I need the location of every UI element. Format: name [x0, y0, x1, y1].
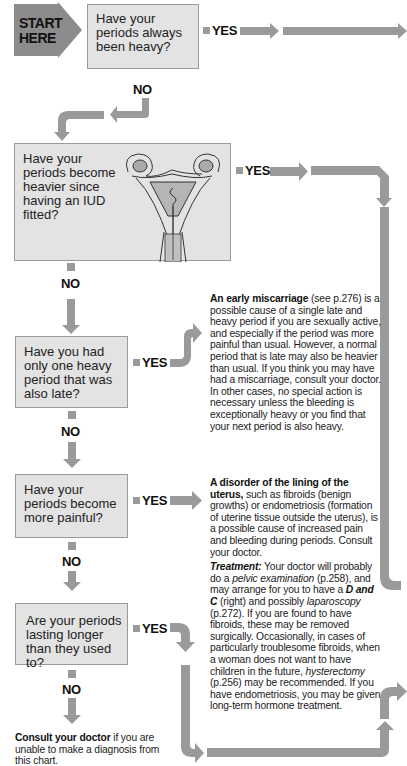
term-pelvic-exam: pelvic examination	[232, 573, 314, 584]
no-label-q2: NO	[61, 276, 80, 291]
question-box-lasting-longer: Are your periods lasting longer than the…	[15, 603, 128, 665]
no-label-q5: NO	[62, 682, 81, 697]
no-label-q3: NO	[61, 424, 80, 439]
info-early-miscarriage: An early miscarriage (see p.276) is a po…	[210, 293, 382, 432]
term-laparoscopy: laparoscopy	[307, 596, 361, 607]
start-line2: HERE	[19, 31, 62, 46]
yes-label-q4: YES	[142, 493, 167, 508]
question-text: Have you had only one heavy period that …	[24, 345, 124, 401]
start-line1: START	[19, 16, 62, 31]
treatment-label: Treatment:	[210, 561, 262, 572]
question-box-always-heavy: Have your periods always been heavy?	[87, 4, 199, 69]
yes-label-q1: YES	[212, 23, 237, 38]
start-here-label: START HERE	[19, 16, 62, 46]
term-hysterectomy: hysterectomy	[305, 666, 364, 677]
yes-marker	[203, 27, 210, 34]
yes-label-q2: YES	[245, 163, 270, 178]
yes-marker	[236, 167, 243, 174]
info-ref: (see p.276)	[308, 293, 361, 304]
info-body: is a possible cause of a single late and…	[210, 293, 381, 432]
conclusion-bold: Consult your doctor	[15, 732, 111, 743]
question-text: Have your periods become heavier since h…	[23, 152, 123, 222]
uterus-iud-illustration-icon	[118, 146, 228, 262]
question-box-more-painful: Have your periods become more painful?	[15, 474, 128, 538]
yes-marker	[133, 497, 140, 504]
info-uterus-lining-disorder: A disorder of the lining of the uterus, …	[210, 477, 382, 715]
question-text: Are your periods lasting longer than the…	[26, 614, 128, 670]
yes-marker	[133, 359, 140, 366]
conclusion-consult-doctor: Consult your doctor if you are unable to…	[15, 732, 175, 766]
no-label-q4: NO	[62, 554, 81, 569]
treatment-text: (right) and possibly	[217, 596, 306, 607]
question-text: Have your periods always been heavy?	[96, 12, 196, 54]
question-box-iud: Have your periods become heavier since h…	[14, 143, 231, 261]
no-label-q1: NO	[133, 82, 152, 97]
question-text: Have your periods become more painful?	[24, 483, 124, 525]
question-box-one-heavy-late: Have you had only one heavy period that …	[15, 336, 128, 408]
yes-label-q3: YES	[142, 355, 167, 370]
yes-label-q5: YES	[142, 621, 167, 636]
yes-marker	[133, 625, 140, 632]
info-title: An early miscarriage	[210, 293, 308, 304]
treatment-text: (p.256) may be recommended. If you have …	[210, 677, 380, 711]
